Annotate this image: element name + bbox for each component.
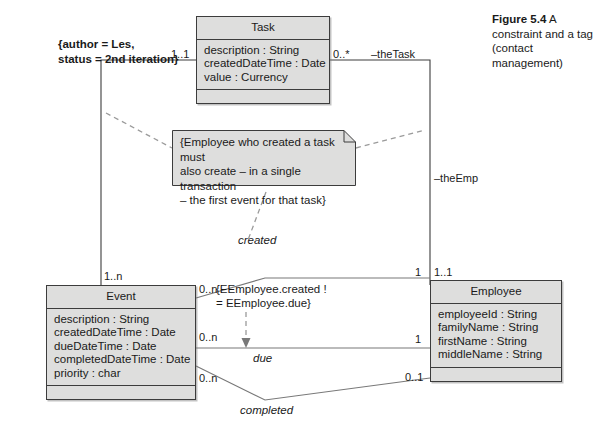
class-box-employee[interactable]: Employee employeeId : String familyName … — [430, 280, 562, 382]
role-name-theemp: –theEmp — [434, 172, 478, 185]
tag-note-text: {author = Les, status = 2nd iteration} — [58, 37, 178, 66]
class-operations-employee — [431, 368, 561, 381]
attribute: description : String — [204, 44, 323, 57]
multiplicity-event-end-task-event: 1..n — [104, 270, 122, 283]
assoc-name-due: due — [253, 352, 272, 365]
attribute: createdDateTime : Date — [54, 326, 189, 339]
note-text-constraint: {Employee who created a task must also c… — [172, 130, 356, 212]
role-name-thetask: –theTask — [371, 48, 415, 61]
attribute: employeeId : String — [438, 308, 555, 321]
attribute: createdDateTime : Date — [204, 57, 323, 70]
multiplicity-event-due: 0..n — [199, 331, 217, 344]
figure-caption: Figure 5.4 A constraint and a tag (conta… — [492, 12, 596, 70]
constraint-note-anchor-right — [356, 130, 425, 148]
attribute: priority : char — [54, 367, 189, 380]
multiplicity-employee-end-task-employee: 1..1 — [434, 266, 452, 279]
note-box-constraint[interactable]: {Employee who created a task must also c… — [172, 130, 356, 186]
multiplicity-event-completed: 0..n — [199, 372, 217, 385]
multiplicity-task-end-task-event: 1..1 — [171, 48, 189, 61]
class-name-event: Event — [47, 286, 195, 309]
constraint-arrowhead-due — [242, 338, 251, 348]
attribute: value : Currency — [204, 71, 323, 84]
class-name-task: Task — [197, 17, 329, 40]
attribute: description : String — [54, 313, 189, 326]
multiplicity-event-created: 0..n — [199, 283, 217, 296]
assoc-line-completed — [196, 366, 430, 400]
class-box-task[interactable]: Task description : String createdDateTim… — [196, 16, 330, 104]
assoc-name-completed: completed — [240, 404, 293, 417]
attribute: middleName : String — [438, 348, 555, 361]
attribute: dueDateTime : Date — [54, 340, 189, 353]
tag-note-anchor — [106, 113, 172, 148]
class-attributes-employee: employeeId : String familyName : String … — [431, 304, 561, 368]
class-box-event[interactable]: Event description : String createdDateTi… — [46, 285, 196, 400]
uml-diagram-canvas: Task description : String createdDateTim… — [0, 0, 602, 433]
multiplicity-employee-created: 1 — [415, 266, 421, 279]
class-name-employee: Employee — [431, 281, 561, 304]
assoc-name-created: created — [238, 234, 276, 247]
multiplicity-task-end-task-employee: 0..* — [333, 48, 350, 61]
multiplicity-employee-completed: 0..1 — [405, 371, 423, 384]
figure-label: Figure 5.4 — [492, 13, 546, 25]
class-operations-event — [47, 386, 195, 399]
class-attributes-task: description : String createdDateTime : D… — [197, 40, 329, 90]
inline-constraint-text: {EEmployee.created ! = EEmployee.due} — [216, 282, 327, 310]
class-attributes-event: description : String createdDateTime : D… — [47, 309, 195, 386]
multiplicity-employee-due: 1 — [415, 333, 421, 346]
attribute: completedDateTime : Date — [54, 353, 189, 366]
attribute: firstName : String — [438, 335, 555, 348]
attribute: familyName : String — [438, 321, 555, 334]
class-operations-task — [197, 90, 329, 103]
